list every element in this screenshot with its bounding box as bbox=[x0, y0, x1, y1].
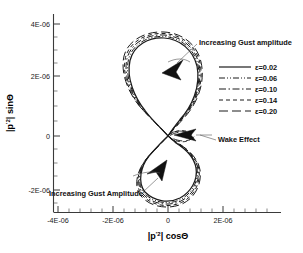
x-axis-title: |p'2| cosΘ bbox=[148, 231, 188, 242]
y-axis-title: |p'2| sinΘ bbox=[5, 94, 16, 132]
y-axis-title-tail: | sinΘ bbox=[5, 94, 15, 119]
x-tick-label: -2E-06 bbox=[102, 216, 124, 225]
legend-item-label: ε=0.06 bbox=[255, 74, 277, 83]
svg-text:|p'2| cosΘ: |p'2| cosΘ bbox=[148, 231, 188, 242]
x-tick-label: 2E-06 bbox=[213, 216, 232, 225]
annotation-upper-gust-label: Increasing Gust amplitude bbox=[199, 38, 292, 47]
legend-item-label: ε=0.20 bbox=[255, 107, 277, 116]
directivity-plot: -4E-06 -2E-06 0 2E-06 4E-06 2E-06 0 -2E-… bbox=[0, 0, 303, 253]
figure-container: -4E-06 -2E-06 0 2E-06 4E-06 2E-06 0 -2E-… bbox=[0, 0, 303, 253]
x-axis-title-tail: | cosΘ bbox=[161, 231, 189, 241]
legend-item-label: ε=0.10 bbox=[255, 85, 277, 94]
y-tick-label: 4E-06 bbox=[31, 20, 50, 29]
svg-text:|p'2| sinΘ: |p'2| sinΘ bbox=[5, 94, 16, 132]
y-tick-label: -2E-06 bbox=[28, 186, 50, 195]
annotation-wake-effect-label: Wake Effect bbox=[218, 135, 260, 144]
y-tick-label: 2E-06 bbox=[31, 72, 50, 81]
y-tick-label: 0 bbox=[46, 132, 50, 141]
x-tick-label: -4E-06 bbox=[47, 216, 69, 225]
x-tick-label: 0 bbox=[166, 216, 170, 225]
legend-item-label: ε=0.02 bbox=[255, 63, 277, 72]
legend-item-label: ε=0.14 bbox=[255, 96, 278, 105]
annotation-lower-gust-label: Increasing Gust Amplitude bbox=[49, 189, 143, 198]
